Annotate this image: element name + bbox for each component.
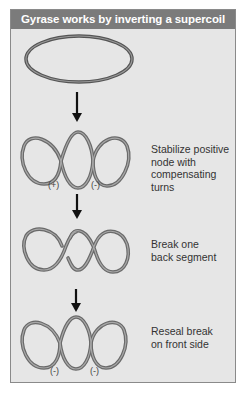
label-line: Break one <box>151 238 216 251</box>
step-label-break: Break one back segment <box>151 238 216 263</box>
down-arrow-icon <box>72 92 82 122</box>
broken-supercoil-icon <box>24 229 128 272</box>
label-line: turns <box>151 181 229 194</box>
down-arrow-icon <box>71 289 81 312</box>
supercoil-negative-nodes-icon <box>22 317 126 369</box>
label-line: back segment <box>151 251 216 264</box>
down-arrow-icon <box>72 194 82 219</box>
label-line: compensating <box>151 168 229 181</box>
node-sign-negative: (-) <box>50 366 59 376</box>
node-sign-negative: (-) <box>91 180 100 190</box>
step-label-stabilize: Stabilize positive node with compensatin… <box>151 143 229 193</box>
supercoil-positive-node-icon <box>22 132 128 188</box>
node-sign-positive: (+) <box>48 180 59 190</box>
step-label-reseal: Reseal break on front side <box>151 325 213 350</box>
label-line: Stabilize positive <box>151 143 229 156</box>
label-line: Reseal break <box>151 325 213 338</box>
relaxed-circle-icon <box>26 36 132 82</box>
node-sign-negative: (-) <box>90 366 99 376</box>
label-line: on front side <box>151 338 213 351</box>
label-line: node with <box>151 156 229 169</box>
